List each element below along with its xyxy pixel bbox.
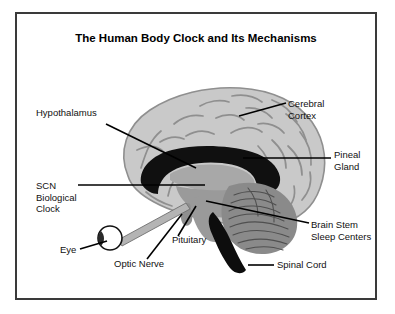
brain-diagram: The Human Body Clock and Its Mechanisms (0, 0, 395, 314)
label-optic-nerve: Optic Nerve (114, 258, 164, 269)
page-title: The Human Body Clock and Its Mechanisms (75, 32, 317, 44)
label-spinal-cord: Spinal Cord (277, 259, 327, 270)
label-pituitary: Pituitary (172, 234, 207, 245)
label-eye: Eye (60, 244, 76, 255)
label-cerebral-cortex: Cerebral Cortex (288, 98, 327, 121)
body-clock-figure: The Human Body Clock and Its Mechanisms (0, 0, 395, 314)
label-brain-stem-sleep-centers: Brain Stem Sleep Centers (311, 219, 371, 242)
label-pineal-gland: Pineal Gland (334, 149, 363, 172)
label-scn-biological-clock: SCN Biological Clock (36, 180, 79, 214)
label-hypothalamus: Hypothalamus (36, 107, 97, 118)
